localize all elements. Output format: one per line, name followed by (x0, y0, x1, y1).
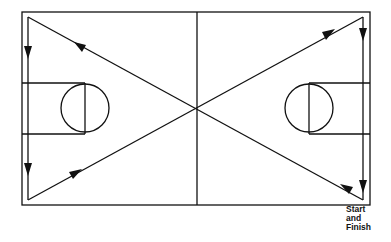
arrow-down-icon (24, 46, 32, 59)
arrow-down-icon (359, 28, 367, 41)
label-line-finish: Finish (346, 223, 371, 232)
arrow-down-icon (359, 180, 367, 193)
left-key (22, 83, 109, 134)
arrow-down-icon (24, 163, 32, 176)
arrow-up-right-icon (69, 169, 82, 179)
court-diagram (0, 0, 391, 242)
right-key (285, 83, 370, 134)
start-finish-label: Start and Finish (346, 205, 371, 232)
arrow-up-left-icon (74, 42, 86, 52)
